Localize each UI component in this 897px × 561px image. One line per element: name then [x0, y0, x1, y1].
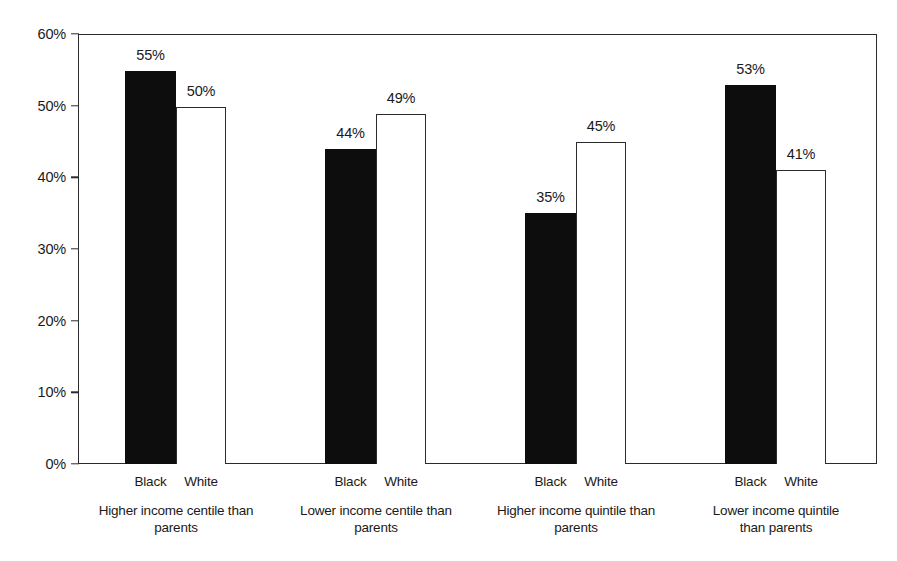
x-label-group2-white: White [584, 474, 618, 489]
x-group-label-2-line2: parents [456, 519, 696, 536]
bar-chart: 0% 10% 20% 30% 40% 50% 60% 55% 50% 44% 4… [0, 0, 897, 561]
bar-value-group3-black: 53% [736, 61, 764, 77]
x-group-label-3-line1: Lower income quintile [666, 502, 886, 519]
bar-group2-black[interactable] [525, 213, 576, 464]
bar-value-group0-black: 55% [136, 47, 164, 63]
x-label-group3-black: Black [734, 474, 766, 489]
bar-group3-white[interactable] [776, 170, 826, 464]
bar-value-group3-white: 41% [787, 146, 815, 162]
bar-group2-white[interactable] [576, 142, 626, 465]
bar-value-group2-black: 35% [536, 189, 564, 205]
bar-group1-black[interactable] [325, 149, 376, 464]
x-group-label-3-line2: than parents [666, 519, 886, 536]
bar-group1-white[interactable] [376, 114, 426, 464]
x-label-group3-white: White [784, 474, 818, 489]
x-group-label-3: Lower income quintile than parents [666, 502, 886, 536]
bar-group0-white[interactable] [176, 107, 226, 464]
bar-value-group2-white: 45% [587, 118, 615, 134]
bar-group3-black[interactable] [725, 85, 776, 464]
x-label-group1-white: White [384, 474, 418, 489]
bar-value-group1-black: 44% [336, 125, 364, 141]
x-label-group0-white: White [184, 474, 218, 489]
x-label-group0-black: Black [134, 474, 166, 489]
bar-value-group1-white: 49% [387, 90, 415, 106]
bar-value-group0-white: 50% [187, 83, 215, 99]
x-label-group2-black: Black [534, 474, 566, 489]
x-group-label-2-line1: Higher income quintile than [456, 502, 696, 519]
x-group-label-2: Higher income quintile than parents [456, 502, 696, 536]
bar-group0-black[interactable] [125, 71, 176, 464]
x-label-group1-black: Black [334, 474, 366, 489]
